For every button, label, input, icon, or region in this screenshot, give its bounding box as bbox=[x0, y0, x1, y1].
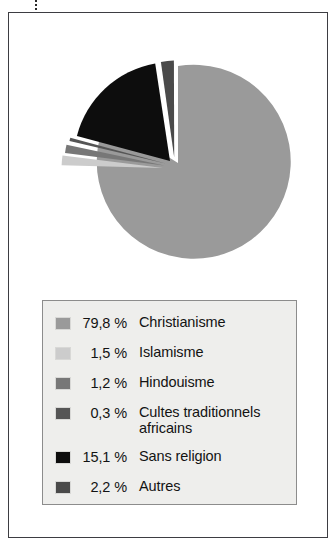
legend-row-autres: 2,2 % Autres bbox=[55, 479, 288, 495]
legend-swatch-autres bbox=[55, 481, 71, 494]
crop-tick-mark bbox=[35, 0, 37, 11]
legend-swatch-cultes-traditionnels-africains bbox=[55, 407, 71, 420]
legend-row-islamisme: 1,5 % Islamisme bbox=[55, 345, 288, 361]
pie-chart-svg bbox=[8, 12, 328, 292]
legend-swatch-islamisme bbox=[55, 347, 71, 360]
pie-slice-sans-religion bbox=[77, 63, 170, 161]
legend-percent-islamisme: 1,5 % bbox=[71, 345, 139, 361]
chart-legend: 79,8 % Christianisme 1,5 % Islamisme 1,2… bbox=[42, 300, 297, 505]
legend-label-hindouisme: Hindouisme bbox=[139, 375, 288, 391]
legend-swatch-christianisme bbox=[55, 317, 71, 330]
pie-chart-area bbox=[8, 12, 328, 292]
legend-swatch-sans-religion bbox=[55, 451, 71, 464]
legend-label-islamisme: Islamisme bbox=[139, 345, 288, 361]
legend-row-cultes-traditionnels-africains: 0,3 % Cultes traditionnels africains bbox=[55, 405, 288, 436]
legend-percent-sans-religion: 15,1 % bbox=[71, 449, 139, 465]
legend-percent-cultes-traditionnels-africains: 0,3 % bbox=[71, 405, 139, 421]
legend-label-sans-religion: Sans religion bbox=[139, 449, 288, 465]
legend-label-christianisme: Christianisme bbox=[139, 315, 288, 331]
legend-row-hindouisme: 1,2 % Hindouisme bbox=[55, 375, 288, 391]
legend-percent-autres: 2,2 % bbox=[71, 479, 139, 495]
legend-label-autres: Autres bbox=[139, 479, 288, 495]
legend-row-christianisme: 79,8 % Christianisme bbox=[55, 315, 288, 331]
legend-row-list: 79,8 % Christianisme 1,5 % Islamisme 1,2… bbox=[43, 301, 296, 504]
legend-row-sans-religion: 15,1 % Sans religion bbox=[55, 449, 288, 465]
legend-percent-christianisme: 79,8 % bbox=[71, 315, 139, 331]
legend-label-cultes-traditionnels-africains: Cultes traditionnels africains bbox=[139, 405, 288, 436]
legend-swatch-hindouisme bbox=[55, 377, 71, 390]
legend-percent-hindouisme: 1,2 % bbox=[71, 375, 139, 391]
pie-chart-figure: 79,8 % Christianisme 1,5 % Islamisme 1,2… bbox=[0, 0, 336, 544]
